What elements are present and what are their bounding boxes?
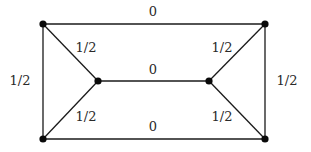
node-middle-left: [94, 77, 101, 84]
node-middle-right: [205, 77, 212, 84]
label-top-edge: 0: [149, 4, 157, 19]
label-lower-right-diag: 1/2: [212, 109, 233, 124]
graph-diagram: 0 0 0 1/2 1/2 1/2 1/2 1/2 1/2: [0, 0, 311, 152]
label-right-edge: 1/2: [277, 73, 298, 88]
label-upper-left-diag: 1/2: [76, 40, 97, 55]
node-top-right: [261, 20, 268, 27]
node-bottom-right: [261, 135, 268, 142]
label-middle-edge: 0: [149, 62, 157, 77]
label-bottom-edge: 0: [149, 119, 157, 134]
node-bottom-left: [39, 135, 46, 142]
node-top-left: [39, 20, 46, 27]
label-lower-left-diag: 1/2: [76, 109, 97, 124]
graph-svg: 0 0 0 1/2 1/2 1/2 1/2 1/2 1/2: [0, 0, 311, 152]
label-upper-right-diag: 1/2: [212, 40, 233, 55]
label-left-edge: 1/2: [10, 73, 31, 88]
